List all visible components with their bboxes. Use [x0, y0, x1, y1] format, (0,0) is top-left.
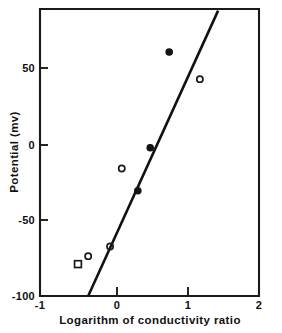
y-tick-label-1: 0 [29, 139, 35, 151]
y-tick-label-2: -50 [18, 214, 35, 226]
y-tick-label-3: -100 [12, 290, 35, 302]
scatter-plot: 50 0 -50 -100 -1 0 1 2 Potential (mv) Lo… [0, 0, 282, 333]
data-point-open-circle-2 [119, 165, 125, 171]
fit-line-group [88, 11, 218, 296]
data-point-filled-circle-1 [147, 145, 153, 151]
x-tick-label-0: -1 [35, 299, 45, 311]
plot-frame [40, 9, 259, 296]
data-point-open-circle-0 [85, 253, 91, 259]
x-tick-label-1: 0 [114, 299, 120, 311]
x-axis-ticks [117, 287, 188, 296]
data-point-filled-circle-2 [166, 49, 172, 55]
page-caption [0, 319, 282, 333]
y-tick-label-0: 50 [22, 62, 35, 74]
x-tick-label-3: 2 [256, 299, 262, 311]
y-axis-ticks [40, 68, 48, 296]
x-axis-tick-labels: -1 0 1 2 [35, 299, 262, 311]
data-markers [75, 49, 203, 268]
y-axis-label: Potential (mv) [8, 111, 20, 193]
regression-line [88, 11, 218, 296]
x-tick-label-2: 1 [185, 299, 191, 311]
figure-container: 50 0 -50 -100 -1 0 1 2 Potential (mv) Lo… [0, 0, 282, 333]
data-point-open-circle-3 [197, 76, 203, 82]
data-point-filled-circle-0 [135, 188, 141, 194]
data-point-open-square-0 [75, 261, 82, 268]
